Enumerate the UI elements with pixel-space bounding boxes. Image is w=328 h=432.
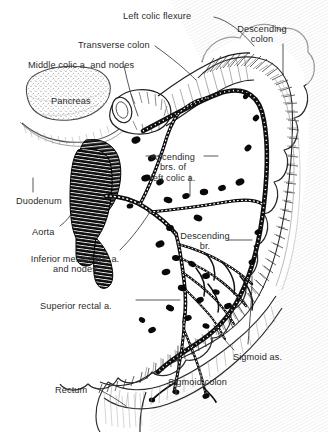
label-sigmoid-as: Sigmoid as.: [233, 352, 282, 362]
label-duodenum: Duodenum: [16, 196, 62, 206]
label-superior-rectal-a: Superior rectal a.: [40, 301, 112, 311]
label-middle-colic-a: Middle colic a. and nodes: [28, 60, 134, 70]
label-left-colic-flexure: Left colic flexure: [123, 11, 191, 21]
label-descending-br: Descending br.: [41, 231, 328, 252]
label-inferior-mesenteric-a: Inferior mesenteric a. and nodes: [0, 254, 239, 275]
label-pancreas: Pancreas: [51, 96, 91, 106]
label-transverse-colon: Transverse colon: [78, 40, 150, 50]
label-ascending-brs: Ascending brs. of left colic a.: [9, 152, 328, 183]
label-rectum: Rectum: [55, 385, 87, 395]
label-sigmoid-colon: Sigmoid colon: [168, 377, 227, 387]
